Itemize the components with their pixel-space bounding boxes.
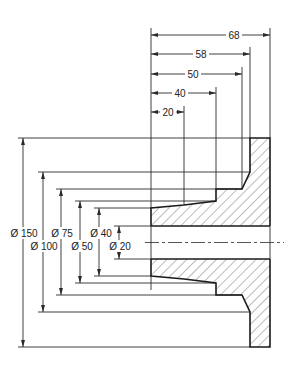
length-label-68: 68 (228, 30, 240, 41)
length-labels: 68 58 50 40 20 (160, 29, 242, 118)
arrowhead-down-dia-75 (59, 288, 63, 295)
arrowhead-up-dia-50 (78, 201, 82, 208)
arrowhead-right-len-68 (263, 33, 270, 37)
arrowhead-left-len-20 (151, 110, 158, 114)
arrowhead-down-dia-20 (117, 252, 121, 259)
diameter-label-40: Ø 40 (90, 228, 112, 239)
section-hatch-upper (151, 138, 270, 226)
arrowhead-down-dia-40 (97, 269, 101, 276)
length-label-20: 20 (162, 107, 174, 118)
arrowhead-left-len-58 (151, 52, 158, 56)
arrowhead-right-len-58 (243, 52, 250, 56)
technical-drawing: 68 58 50 40 20 Ø 150 Ø 100 Ø 75 Ø 50 Ø 4… (0, 0, 292, 367)
diameter-labels: Ø 150 Ø 100 Ø 75 Ø 50 Ø 40 Ø 20 (8, 227, 131, 252)
diameter-label-50: Ø 50 (71, 241, 93, 252)
arrowhead-right-len-40 (209, 91, 216, 95)
arrowhead-up-dia-100 (41, 172, 45, 179)
arrowhead-up-dia-40 (97, 208, 101, 215)
section-hatch-lower (151, 259, 270, 347)
length-label-40: 40 (174, 88, 186, 99)
arrowhead-up-dia-75 (59, 189, 63, 196)
arrowhead-left-len-68 (151, 33, 158, 37)
diameter-label-100: Ø 100 (30, 241, 58, 252)
arrowhead-down-dia-100 (41, 305, 45, 312)
arrowhead-right-len-50 (235, 72, 242, 76)
arrowhead-down-dia-50 (78, 276, 82, 283)
length-label-58: 58 (195, 49, 207, 60)
arrowhead-up-dia-150 (21, 138, 25, 145)
length-label-50: 50 (187, 69, 199, 80)
arrowhead-left-len-40 (151, 91, 158, 95)
arrowhead-up-dia-20 (117, 226, 121, 233)
diameter-label-150: Ø 150 (10, 228, 38, 239)
diameter-label-75: Ø 75 (51, 228, 73, 239)
arrowhead-left-len-50 (151, 72, 158, 76)
diameter-label-20: Ø 20 (109, 241, 131, 252)
arrowhead-down-dia-150 (21, 340, 25, 347)
length-dimension-lines (151, 33, 270, 114)
arrowhead-right-len-20 (177, 110, 184, 114)
